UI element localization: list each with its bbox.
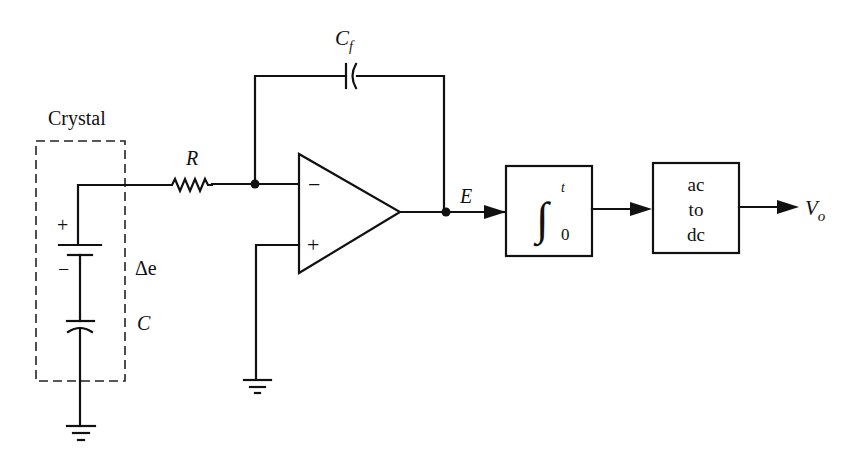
- integrator-block: ∫ t 0: [506, 166, 592, 256]
- opamp-inverting-sign: −: [308, 172, 320, 197]
- block-line-3: dc: [687, 224, 705, 245]
- arrow-icon: [630, 202, 652, 216]
- circuit-diagram: Crystal + − Δe C R: [0, 0, 853, 468]
- source-label: Δe: [135, 257, 157, 279]
- arrow-icon: [777, 200, 799, 214]
- final-output-label: Vo: [805, 196, 826, 224]
- ground-icon: [67, 426, 95, 440]
- resistor-label: R: [185, 147, 198, 169]
- block-line-1: ac: [688, 174, 705, 195]
- source-minus-sign: −: [58, 258, 69, 280]
- opamp: − +: [299, 154, 400, 273]
- integral-lower-limit: 0: [561, 225, 570, 244]
- opamp-noninverting-sign: +: [307, 232, 319, 257]
- integral-symbol: ∫: [533, 193, 551, 247]
- source-plus-sign: +: [57, 214, 68, 236]
- crystal-label: Crystal: [48, 107, 106, 130]
- ac-to-dc-block: ac to dc: [653, 163, 739, 253]
- resistor: R: [168, 147, 212, 191]
- output-node: [442, 208, 451, 217]
- voltage-source-icon: [59, 245, 101, 255]
- feedback-capacitor-icon: [346, 64, 356, 88]
- ground-icon: [244, 380, 271, 393]
- opamp-output-label: E: [459, 185, 472, 207]
- block-line-2: to: [689, 199, 704, 220]
- crystal-capacitor-label: C: [137, 312, 151, 334]
- feedback-capacitor-label: Cf: [335, 26, 355, 54]
- crystal-circuit: + − Δe C: [57, 185, 170, 440]
